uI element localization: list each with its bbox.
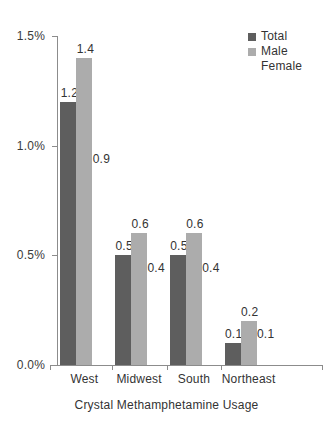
x-axis-label-midwest: Midwest (116, 372, 161, 386)
x-axis-label-west: West (70, 372, 98, 386)
bar-value-label: 0.2 (239, 305, 261, 319)
y-axis-tick (52, 36, 57, 37)
bar-west-female (92, 168, 108, 365)
x-axis-tick (322, 365, 323, 370)
legend-label: Female (261, 59, 302, 74)
bar-midwest-total (115, 255, 131, 365)
legend-label: Male (261, 44, 288, 59)
legend-item-female[interactable]: Female (248, 59, 302, 74)
plot-area: 1.21.40.90.50.60.40.50.60.40.10.20.1 (57, 36, 276, 365)
bar-northeast-total (225, 343, 241, 365)
bar-west-male (76, 58, 92, 365)
y-axis-tick (52, 146, 57, 147)
x-axis-line (50, 365, 322, 366)
bar-value-label: 0.6 (129, 217, 151, 231)
y-axis-tick-label: 1.5% (0, 29, 45, 43)
legend-swatch-icon (248, 48, 256, 56)
x-axis-tick (167, 365, 168, 370)
y-axis-tick (52, 255, 57, 256)
bar-west-total (60, 102, 76, 365)
bar-chart: 1.21.40.90.50.60.40.50.60.40.10.20.1 0.0… (0, 0, 333, 434)
bar-south-total (170, 255, 186, 365)
chart-legend: TotalMaleFemale (248, 29, 302, 74)
bar-midwest-female (147, 277, 163, 365)
y-axis-tick-label: 1.0% (0, 139, 45, 153)
legend-item-total[interactable]: Total (248, 29, 302, 44)
x-axis-tick (221, 365, 222, 370)
x-axis-tick (50, 365, 51, 370)
x-axis-label-south: South (178, 372, 210, 386)
y-axis-tick-label: 0.0% (0, 358, 45, 372)
legend-label: Total (261, 29, 287, 44)
bar-value-label: 0.9 (90, 152, 112, 166)
y-axis-tick (52, 365, 57, 366)
legend-swatch-icon (248, 63, 256, 71)
y-axis-tick-label: 0.5% (0, 248, 45, 262)
bar-value-label: 0.4 (200, 261, 222, 275)
bar-value-label: 0.4 (145, 261, 167, 275)
bar-midwest-male (131, 233, 147, 365)
bar-south-female (202, 277, 218, 365)
legend-item-male[interactable]: Male (248, 44, 302, 59)
bar-value-label: 0.6 (184, 217, 206, 231)
bar-south-male (186, 233, 202, 365)
legend-swatch-icon (248, 33, 256, 41)
bar-northeast-female (257, 343, 273, 365)
bar-value-label: 1.4 (74, 42, 96, 56)
x-axis-tick (112, 365, 113, 370)
x-axis-title: Crystal Methamphetamine Usage (0, 398, 333, 412)
x-axis-label-northeast: Northeast (222, 372, 276, 386)
bar-value-label: 0.1 (255, 327, 277, 341)
